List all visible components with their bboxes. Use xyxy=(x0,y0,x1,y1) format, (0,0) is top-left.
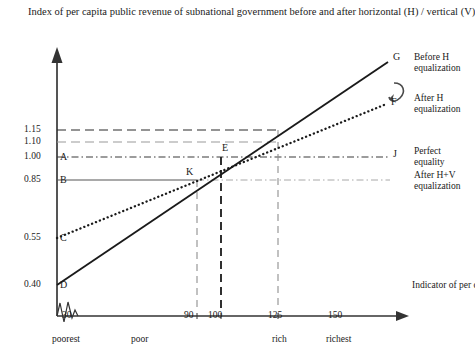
y-tick-1-15: 1.15 xyxy=(24,124,41,135)
point-label-C: C xyxy=(60,232,67,244)
x-category-rich: rich xyxy=(272,334,287,345)
y-tick-0-85: 0.85 xyxy=(24,174,41,185)
x-axis xyxy=(57,311,409,321)
legend-perfect-equality: Perfect equality xyxy=(414,146,475,168)
chart-figure: Index of per capita public revenue of su… xyxy=(0,0,475,364)
point-label-G: G xyxy=(393,51,400,63)
y-tick-0-40: 0.40 xyxy=(24,279,41,290)
legend-after-hv-equalization: After H+V equalization xyxy=(414,170,475,192)
point-label-A: A xyxy=(60,151,67,163)
x-tick-125: 125 xyxy=(268,310,282,321)
legend-before-h-equalization: Before H equalization xyxy=(414,52,475,74)
point-label-K: K xyxy=(186,166,193,178)
y-tick-1-10: 1.10 xyxy=(24,136,41,147)
point-label-E: E xyxy=(222,142,228,154)
point-label-B: B xyxy=(60,174,67,186)
point-label-D: D xyxy=(60,279,67,291)
point-label-F: F xyxy=(391,96,397,108)
x-tick-90: 90 xyxy=(184,310,194,321)
x-tick-30: 30 xyxy=(62,310,72,321)
x-category-poor: poor xyxy=(131,334,148,345)
x-category-poorest: poorest xyxy=(52,334,80,345)
x-category-richest: richest xyxy=(326,334,351,345)
legend-after-h-equalization: After H equalization xyxy=(414,93,475,115)
y-tick-1-00: 1.00 xyxy=(24,151,41,162)
x-axis-title: Indicator of per capita financial capaci… xyxy=(412,280,474,291)
point-label-J: J xyxy=(393,148,397,160)
series-after-h xyxy=(57,105,384,238)
series-before-h xyxy=(57,62,388,285)
x-tick-150: 150 xyxy=(328,310,342,321)
x-tick-100: 100 xyxy=(208,310,222,321)
y-tick-0-55: 0.55 xyxy=(24,232,41,243)
